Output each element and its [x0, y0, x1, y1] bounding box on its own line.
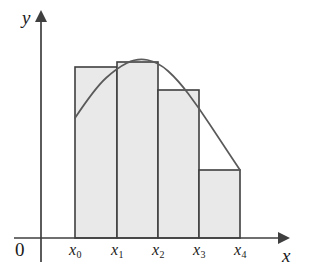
tick-label-x0: x0 [69, 242, 81, 258]
tick-label-x4: x4 [234, 242, 246, 258]
tick-label-x1-base: x [111, 241, 118, 258]
tick-label-x2: x2 [152, 242, 164, 258]
tick-label-x4-base: x [234, 241, 241, 258]
riemann-rectangle-2 [117, 62, 158, 238]
tick-label-x2-sub: 2 [160, 249, 165, 260]
tick-label-x3-base: x [193, 241, 200, 258]
riemann-rectangle-3 [158, 90, 199, 238]
y-axis-arrowhead [35, 10, 47, 22]
riemann-sum-figure: y x 0 x0 x1 x2 x3 x4 [0, 0, 311, 279]
tick-label-x0-sub: 0 [77, 249, 82, 260]
x-axis-label: x [282, 246, 290, 265]
tick-label-x1-sub: 1 [119, 249, 124, 260]
riemann-rectangle-4 [199, 170, 240, 238]
tick-label-x3-sub: 3 [201, 249, 206, 260]
tick-label-x3: x3 [193, 242, 205, 258]
origin-label: 0 [15, 240, 25, 259]
y-axis-label: y [22, 8, 30, 27]
tick-label-x1: x1 [111, 242, 123, 258]
tick-label-x2-base: x [152, 241, 159, 258]
figure-canvas [0, 0, 311, 279]
riemann-rectangle-1 [75, 67, 117, 238]
rectangles-group [75, 62, 240, 238]
tick-label-x4-sub: 4 [242, 249, 247, 260]
tick-label-x0-base: x [69, 241, 76, 258]
x-axis-arrowhead [278, 232, 290, 244]
